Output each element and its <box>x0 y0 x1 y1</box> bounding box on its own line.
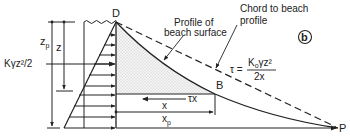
tau-x-label: τx <box>188 93 197 104</box>
panel-label: b <box>301 31 308 43</box>
x-label: x <box>162 100 167 111</box>
chord-label-line1: Chord to beach <box>240 3 308 14</box>
water-surface-icon <box>84 21 116 24</box>
profile-label-line2: beach surface <box>164 27 227 38</box>
z-label: z <box>56 41 62 53</box>
chord-label-line2: profile <box>240 15 268 26</box>
xp-label: xp <box>162 113 171 127</box>
profile-leader-arrow <box>164 36 183 60</box>
force-label: Kγz²/2 <box>4 58 33 69</box>
pressure-arrows <box>64 35 115 128</box>
point-p-label: P <box>339 122 346 134</box>
beach-profile-diagram: D B P zp z Kγz²/2 Profile of beach surfa… <box>0 0 350 140</box>
point-d-label: D <box>112 7 120 19</box>
tau-formula-numerator: Koγz² <box>248 57 273 69</box>
tau-formula-denominator: 2x <box>254 71 265 82</box>
zp-label: zp <box>40 35 50 50</box>
point-b-label: B <box>216 79 223 91</box>
tau-formula-lhs: τ = <box>230 64 243 75</box>
